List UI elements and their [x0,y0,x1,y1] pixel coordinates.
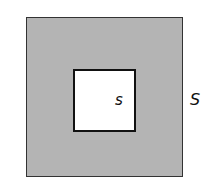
inner-square [73,69,136,132]
outer-square-label: S [190,92,200,108]
inner-square-label: s [115,93,123,108]
